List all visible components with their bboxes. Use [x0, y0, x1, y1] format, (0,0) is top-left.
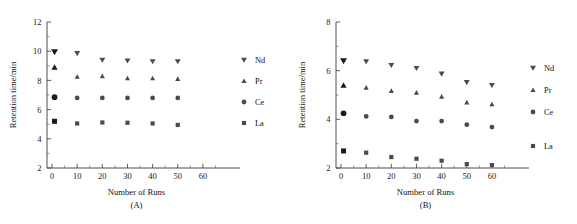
data-point-Ce-30 [414, 119, 419, 124]
data-point-Ce-10 [75, 96, 80, 101]
legend-marker-Ce [242, 100, 247, 105]
data-point-La-40 [151, 121, 155, 125]
series-Nd [51, 49, 181, 64]
panel-a: 246810120102030405060NdPrCeLaNumber of R… [0, 0, 289, 224]
legend-label-Ce: Ce [255, 98, 265, 107]
y-tick-label: 4 [37, 134, 42, 144]
series-Nd [340, 58, 495, 88]
data-point-La-40 [439, 159, 443, 163]
y-tick-label: 10 [33, 46, 42, 56]
data-point-Nd-50 [463, 80, 469, 85]
data-point-Pr-50 [175, 76, 180, 81]
data-point-La-60 [489, 163, 493, 167]
data-point-Pr-1 [51, 64, 57, 70]
legend-marker-Ce [530, 110, 535, 115]
data-point-Nd-30 [413, 66, 419, 71]
data-point-La-50 [464, 162, 468, 166]
y-tick-label: 6 [326, 66, 330, 76]
data-point-Nd-1 [340, 58, 347, 64]
legend-label-Nd: Nd [255, 56, 266, 65]
data-point-Nd-10 [74, 51, 80, 56]
y-tick-label: 12 [33, 17, 42, 27]
data-point-Pr-1 [340, 82, 346, 88]
series-La [52, 119, 180, 127]
x-tick-label: 30 [412, 171, 421, 181]
legend-marker-La [242, 121, 246, 125]
y-tick-label: 8 [326, 17, 330, 27]
y-tick-label: 2 [326, 163, 330, 173]
data-point-Ce-1 [52, 94, 58, 100]
legend-label-Ce: Ce [544, 108, 554, 117]
x-tick-label: 60 [487, 171, 496, 181]
x-tick-label: 0 [50, 171, 54, 181]
data-point-Ce-50 [175, 96, 180, 101]
data-point-Pr-20 [388, 88, 393, 93]
x-axis-label: Number of Runs [396, 187, 454, 197]
data-point-Pr-20 [100, 73, 105, 78]
legend-item-La: La [242, 119, 264, 128]
legend-item-Ce: Ce [530, 108, 553, 117]
x-tick-label: 20 [98, 171, 107, 181]
data-point-Nd-10 [363, 59, 369, 64]
data-point-Ce-60 [489, 125, 494, 130]
x-axis-label: Number of Runs [108, 187, 166, 197]
x-tick-label: 0 [338, 171, 342, 181]
data-point-La-20 [100, 120, 104, 124]
data-point-La-1 [52, 119, 57, 124]
data-point-La-30 [125, 121, 129, 125]
series-Ce [340, 110, 494, 129]
data-point-Nd-20 [388, 63, 394, 68]
series-Ce [52, 94, 180, 100]
x-tick-label: 50 [174, 171, 183, 181]
data-point-Ce-10 [363, 114, 368, 119]
data-point-La-10 [364, 151, 368, 155]
y-tick-label: 2 [37, 163, 41, 173]
data-point-Pr-30 [413, 90, 418, 95]
legend-label-Pr: Pr [544, 86, 552, 95]
data-point-Ce-40 [150, 96, 155, 101]
data-point-Nd-20 [99, 58, 105, 63]
legend-label-La: La [255, 119, 264, 128]
legend-item-Nd: Nd [530, 64, 555, 73]
data-point-La-20 [389, 155, 393, 159]
panel-b: 24680102030405060NdPrCeLaNumber of RunsR… [289, 0, 577, 224]
panel-b-plot: 24680102030405060NdPrCeLaNumber of RunsR… [289, 0, 577, 224]
data-point-Pr-10 [75, 74, 80, 79]
panel-a-plot: 246810120102030405060NdPrCeLaNumber of R… [0, 0, 289, 224]
data-point-Pr-60 [489, 102, 494, 107]
legend-marker-Nd [530, 66, 536, 71]
data-point-Nd-1 [51, 49, 58, 55]
data-point-Pr-10 [363, 85, 368, 90]
data-point-Ce-20 [388, 115, 393, 120]
legend-marker-Pr [530, 87, 535, 92]
x-tick-label: 40 [437, 171, 446, 181]
x-tick-label: 10 [73, 171, 82, 181]
legend-item-Pr: Pr [530, 86, 551, 95]
y-axis-label: Retention time/min [8, 61, 18, 128]
series-Pr [51, 64, 180, 81]
y-axis-label: Retention time/min [297, 61, 307, 128]
series-La [341, 148, 494, 167]
data-point-Pr-30 [125, 76, 130, 81]
legend-item-Nd: Nd [241, 56, 266, 65]
y-tick-label: 6 [37, 105, 41, 115]
legend-item-Ce: Ce [242, 98, 265, 107]
y-tick-label: 4 [326, 114, 331, 124]
x-tick-label: 60 [199, 171, 208, 181]
legend-marker-Pr [241, 78, 246, 83]
data-point-Pr-50 [464, 100, 469, 105]
legend-label-La: La [544, 142, 553, 151]
series-Pr [340, 82, 494, 106]
data-point-Pr-40 [150, 76, 155, 81]
data-point-Nd-50 [175, 59, 181, 64]
legend-item-Pr: Pr [241, 77, 262, 86]
panel-caption: (A) [131, 200, 143, 210]
x-tick-label: 40 [148, 171, 157, 181]
data-point-Ce-1 [340, 110, 346, 116]
data-point-Nd-40 [438, 72, 444, 77]
data-point-Pr-40 [439, 94, 444, 99]
panel-caption: (B) [419, 200, 431, 210]
data-point-La-1 [341, 148, 346, 153]
x-tick-label: 10 [361, 171, 370, 181]
legend-label-Pr: Pr [255, 77, 263, 86]
